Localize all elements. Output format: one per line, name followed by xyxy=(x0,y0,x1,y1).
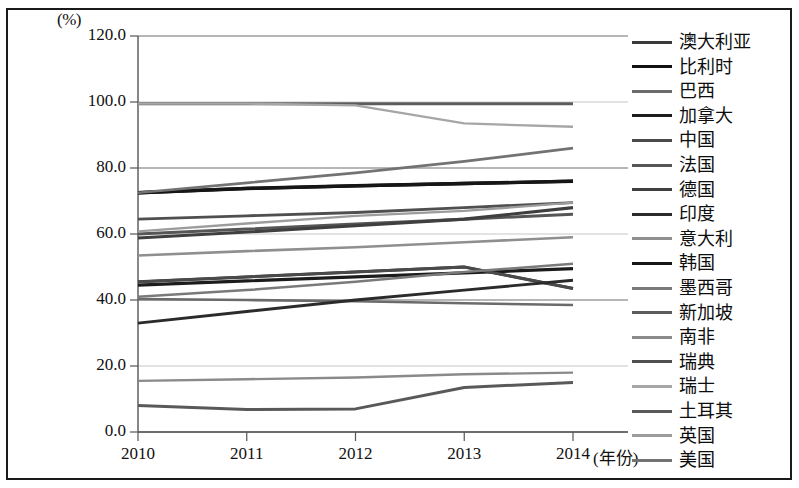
legend-item[interactable]: 印度 xyxy=(632,202,715,226)
legend-label: 澳大利亚 xyxy=(679,33,751,51)
y-axis-tick-label: 0.0 xyxy=(48,421,126,441)
legend-color-swatch xyxy=(632,164,672,167)
legend-item[interactable]: 韩国 xyxy=(632,251,715,275)
legend-item[interactable]: 澳大利亚 xyxy=(632,30,751,54)
series-line xyxy=(138,104,573,127)
legend-color-swatch xyxy=(632,311,672,314)
legend-item[interactable]: 英国 xyxy=(632,424,715,448)
legend-label: 韩国 xyxy=(679,254,715,272)
legend-color-swatch xyxy=(632,287,672,290)
legend-label: 巴西 xyxy=(679,82,715,100)
series-line xyxy=(138,237,573,255)
legend-color-swatch xyxy=(632,410,672,413)
legend-label: 意大利 xyxy=(679,230,733,248)
legend-color-swatch xyxy=(632,139,672,142)
legend-item[interactable]: 南非 xyxy=(632,325,715,349)
legend-color-swatch xyxy=(632,434,672,437)
legend-item[interactable]: 巴西 xyxy=(632,79,715,103)
legend-item[interactable]: 土耳其 xyxy=(632,399,733,423)
legend-label: 新加坡 xyxy=(679,304,733,322)
legend-color-swatch xyxy=(632,237,672,240)
legend-color-swatch xyxy=(632,41,672,44)
legend-color-swatch xyxy=(632,90,672,93)
legend-color-swatch xyxy=(632,188,672,191)
y-axis-tick-label: 80.0 xyxy=(48,157,126,177)
y-axis-tick-label: 20.0 xyxy=(48,355,126,375)
legend-item[interactable]: 墨西哥 xyxy=(632,276,733,300)
legend-label: 南非 xyxy=(679,328,715,346)
legend-item[interactable]: 瑞典 xyxy=(632,350,715,374)
legend-color-swatch xyxy=(632,114,672,117)
legend-color-swatch xyxy=(632,385,672,388)
legend-label: 英国 xyxy=(679,427,715,445)
legend-color-swatch xyxy=(632,360,672,363)
series-group xyxy=(138,104,573,410)
y-axis-tick-label: 120.0 xyxy=(48,25,126,45)
chart-figure: (%) 120.0100.080.060.040.020.00.0 201020… xyxy=(0,0,799,488)
series-line xyxy=(138,383,573,410)
legend-color-swatch xyxy=(632,459,672,462)
legend-item[interactable]: 中国 xyxy=(632,128,715,152)
legend-item[interactable]: 瑞士 xyxy=(632,374,715,398)
x-axis-tick-label: 2012 xyxy=(316,444,396,464)
legend-label: 德国 xyxy=(679,181,715,199)
series-line xyxy=(138,373,573,381)
legend-item[interactable]: 德国 xyxy=(632,178,715,202)
legend-label: 印度 xyxy=(679,205,715,223)
legend-color-swatch xyxy=(632,213,672,216)
y-axis-tick-label: 60.0 xyxy=(48,223,126,243)
legend-label: 法国 xyxy=(679,156,715,174)
legend-label: 中国 xyxy=(679,131,715,149)
legend-item[interactable]: 新加坡 xyxy=(632,301,733,325)
chart-legend: 澳大利亚比利时巴西加拿大中国法国德国印度意大利韩国墨西哥新加坡南非瑞典瑞士土耳其… xyxy=(632,30,784,478)
legend-item[interactable]: 法国 xyxy=(632,153,715,177)
legend-item[interactable]: 加拿大 xyxy=(632,104,733,128)
x-axis-tick-label: 2010 xyxy=(98,444,178,464)
legend-label: 土耳其 xyxy=(679,402,733,420)
legend-label: 比利时 xyxy=(679,58,733,76)
legend-label: 美国 xyxy=(679,451,715,469)
legend-item[interactable]: 美国 xyxy=(632,448,715,472)
legend-item[interactable]: 比利时 xyxy=(632,55,733,79)
legend-color-swatch xyxy=(632,65,672,68)
y-axis-tick-label: 40.0 xyxy=(48,289,126,309)
legend-color-swatch xyxy=(632,336,672,339)
legend-label: 瑞士 xyxy=(679,377,715,395)
legend-label: 加拿大 xyxy=(679,107,733,125)
x-axis-tick-label: 2013 xyxy=(424,444,504,464)
legend-color-swatch xyxy=(632,262,672,265)
x-axis-tick-label: 2011 xyxy=(207,444,287,464)
legend-label: 墨西哥 xyxy=(679,279,733,297)
y-axis-tick-label: 100.0 xyxy=(48,91,126,111)
legend-item[interactable]: 意大利 xyxy=(632,227,733,251)
legend-label: 瑞典 xyxy=(679,353,715,371)
